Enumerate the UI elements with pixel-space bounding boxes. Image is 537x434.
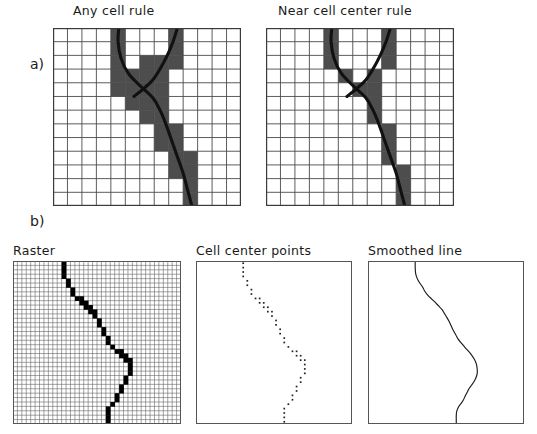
cell-center-point: [292, 399, 294, 401]
raster-cell: [128, 358, 133, 363]
panel-smoothed-line: [368, 261, 524, 424]
cell-center-point: [251, 289, 253, 291]
shaded-cell: [183, 151, 197, 165]
raster-cell: [128, 371, 133, 376]
raster-cell: [110, 402, 115, 407]
cell-center-point: [271, 311, 273, 313]
cell-center-point: [296, 350, 298, 352]
cell-center-point: [296, 355, 298, 357]
shaded-cell: [140, 55, 154, 69]
raster-cell: [84, 301, 89, 306]
cell-center-point: [296, 386, 298, 388]
cell-center-point: [304, 364, 306, 366]
cell-center-point: [246, 284, 248, 286]
raster-cell: [119, 354, 124, 359]
raster-cell: [106, 406, 111, 411]
figure-root: a) Any cell rule Near cell center rule b…: [0, 0, 537, 434]
raster-cell: [66, 283, 71, 288]
cell-center-point: [283, 417, 285, 419]
panel-near-cell-center-rule: [266, 28, 454, 206]
shaded-cell: [111, 83, 125, 97]
cell-center-point: [304, 372, 306, 374]
raster-cell: [106, 415, 111, 420]
cell-center-point: [259, 298, 261, 300]
raster-cell: [93, 309, 98, 314]
cell-center-point: [279, 328, 281, 330]
cell-center-point: [279, 333, 281, 335]
shaded-cell: [111, 69, 125, 83]
section-label-a: a): [30, 56, 44, 72]
panel-frame: [369, 262, 524, 424]
cell-center-point: [283, 408, 285, 410]
cell-center-point: [283, 421, 285, 423]
section-label-b: b): [30, 213, 44, 229]
raster-cell: [119, 349, 124, 354]
cell-center-point: [255, 298, 257, 300]
raster-cell: [88, 305, 93, 310]
raster-cell: [70, 292, 75, 297]
raster-cell: [88, 309, 93, 314]
cell-center-point: [242, 271, 244, 273]
cell-center-point: [271, 315, 273, 317]
cell-center-point: [300, 359, 302, 361]
raster-cell: [97, 318, 102, 323]
cell-center-point: [251, 293, 253, 295]
cell-center-point: [300, 377, 302, 379]
cell-center-point: [259, 302, 261, 304]
raster-cell: [62, 265, 67, 270]
cell-center-point: [292, 395, 294, 397]
grid-lines-layer: [266, 28, 454, 206]
shaded-cell: [154, 138, 168, 152]
shaded-cell: [382, 55, 396, 69]
cell-center-point: [300, 355, 302, 357]
raster-cell: [124, 354, 129, 359]
raster-cell: [62, 270, 67, 275]
raster-cell: [62, 274, 67, 279]
shaded-cell: [125, 96, 139, 110]
cell-center-point: [242, 267, 244, 269]
shaded-cell: [367, 83, 381, 97]
cell-center-point: [263, 306, 265, 308]
raster-cell: [124, 358, 129, 363]
cell-center-point: [288, 403, 290, 405]
cell-center-point: [263, 302, 265, 304]
raster-cell: [110, 345, 115, 350]
cell-center-point: [283, 412, 285, 414]
cell-center-point: [296, 390, 298, 392]
panel-title-any-cell-rule: Any cell rule: [73, 3, 154, 18]
cell-center-point: [275, 320, 277, 322]
shaded-cell: [154, 83, 168, 97]
cell-center-point: [283, 337, 285, 339]
raster-cell: [106, 336, 111, 341]
raster-cell: [124, 376, 129, 381]
raster-cell: [79, 301, 84, 306]
raster-cell: [75, 296, 80, 301]
panel-frame: [197, 262, 352, 424]
cell-center-point: [242, 276, 244, 278]
cell-center-point: [275, 324, 277, 326]
cell-center-point: [292, 350, 294, 352]
point-cloud-layer: [242, 262, 305, 422]
smoothed-line-path: [415, 261, 477, 424]
panel-raster: [13, 261, 181, 424]
cell-center-point: [300, 381, 302, 383]
cell-center-point: [267, 306, 269, 308]
raster-cell: [70, 287, 75, 292]
panel-title-near-cell-center-rule: Near cell center rule: [278, 3, 412, 18]
raster-cell: [66, 279, 71, 284]
cell-center-point: [267, 311, 269, 313]
raster-cell: [97, 323, 102, 328]
raster-cell: [119, 389, 124, 394]
panel-cell-center-points: [196, 261, 352, 424]
panel-title-raster: Raster: [13, 243, 55, 258]
panel-any-cell-rule: [53, 28, 241, 206]
cell-center-point: [283, 342, 285, 344]
raster-cell: [115, 398, 120, 403]
raster-cell: [106, 340, 111, 345]
cell-center-point: [242, 262, 244, 264]
raster-grid-layer: [13, 261, 181, 424]
raster-cell: [124, 380, 129, 385]
cell-center-point: [304, 368, 306, 370]
shaded-cell: [140, 110, 154, 124]
shaded-cell: [169, 55, 183, 69]
